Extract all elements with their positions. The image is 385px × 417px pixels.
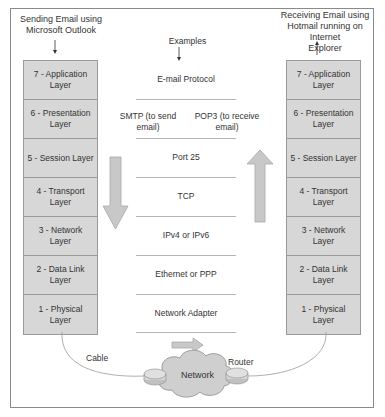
right-arrow-icon [172, 338, 203, 352]
receiver-pointer-arrow-icon [315, 41, 319, 55]
router-right-icon [226, 368, 248, 384]
network-cloud-label: Network [181, 370, 214, 380]
examples-pointer-arrow-icon [177, 47, 181, 61]
sender-pointer-arrow-icon [53, 40, 57, 54]
cable-right [248, 332, 326, 376]
diagram-graphics [0, 0, 385, 417]
router-label: Router [228, 357, 254, 367]
down-arrow-icon [103, 157, 128, 229]
up-arrow-icon [247, 150, 273, 222]
router-left-icon [144, 369, 166, 385]
cable-label: Cable [86, 353, 108, 363]
